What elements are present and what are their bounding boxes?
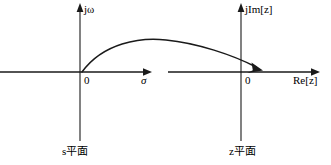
z-plane-jimz-axis-arrowhead <box>238 3 245 12</box>
s-plane-caption: s平面 <box>62 146 88 157</box>
z-plane-vertical-axis-label: jIm[z] <box>245 4 272 15</box>
mapping-arc-arrow <box>82 39 263 73</box>
s-plane-horizontal-axis <box>0 68 152 75</box>
mapping-arc-curve <box>82 39 256 72</box>
z-plane-horizontal-axis-label: Re[z] <box>293 75 317 86</box>
s-plane-horizontal-axis-label: σ <box>141 75 146 86</box>
diagram-canvas <box>0 0 331 165</box>
s-plane-origin-label: 0 <box>84 75 90 86</box>
sz-plane-mapping-figure: jω jIm[z] σ Re[z] 0 0 s平面 z平面 <box>0 0 331 165</box>
s-plane-jomega-axis-arrowhead <box>77 3 84 12</box>
z-plane-caption: z平面 <box>229 146 256 157</box>
s-plane-vertical-axis-label: jω <box>84 4 94 15</box>
z-plane-origin-label: 0 <box>245 75 251 86</box>
